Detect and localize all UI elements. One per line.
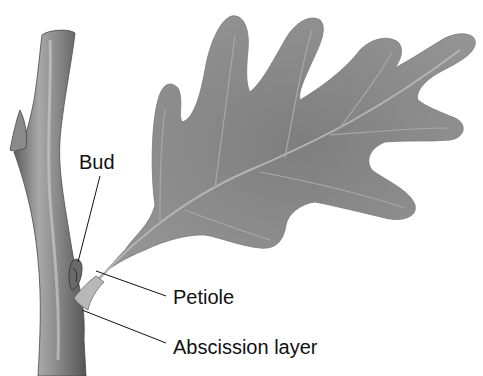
bud [69,259,82,290]
illustration [0,0,483,376]
petiole-leader-line [96,271,166,296]
bud-leader-line [78,176,100,262]
label-petiole: Petiole [173,287,234,307]
twig [10,30,86,376]
oak-leaf [80,16,475,300]
leaf-diagram: Bud Petiole Abscission layer [0,0,483,376]
side-branch-scar [10,110,27,151]
label-abscission-layer: Abscission layer [173,337,318,357]
label-bud: Bud [79,152,115,172]
abscission-leader-line [82,310,166,343]
